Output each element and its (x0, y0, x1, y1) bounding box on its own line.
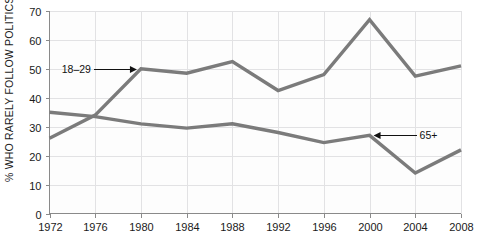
x-tick-label: 1996 (312, 221, 336, 233)
x-tick-label: 2000 (358, 221, 382, 233)
y-tick-label: 20 (29, 151, 41, 163)
annotation-label: 18–29 (62, 63, 91, 75)
x-tick-label: 1984 (175, 221, 199, 233)
y-axis-title: % WHO RARELY FOLLOW POLITICS (3, 0, 15, 182)
chart-container: 010203040506070 197219761980198419881992… (0, 0, 478, 247)
x-tick-label: 1976 (83, 221, 107, 233)
y-tick-label: 40 (29, 93, 41, 105)
x-tick-label: 1980 (129, 221, 153, 233)
x-tick-label: 2004 (403, 221, 427, 233)
y-tick-label: 60 (29, 35, 41, 47)
line-chart: 010203040506070 197219761980198419881992… (0, 0, 478, 247)
y-tick-label: 0 (35, 209, 41, 221)
x-tick-label: 1988 (220, 221, 244, 233)
y-tick-label: 30 (29, 122, 41, 134)
y-tick-label: 70 (29, 6, 41, 18)
annotation-label: 65+ (420, 129, 438, 141)
plot-area-background (49, 11, 461, 214)
x-tick-label: 2008 (449, 221, 473, 233)
x-tick-label: 1972 (38, 221, 62, 233)
x-tick-label: 1992 (266, 221, 290, 233)
y-tick-label: 50 (29, 64, 41, 76)
y-tick-label: 10 (29, 180, 41, 192)
